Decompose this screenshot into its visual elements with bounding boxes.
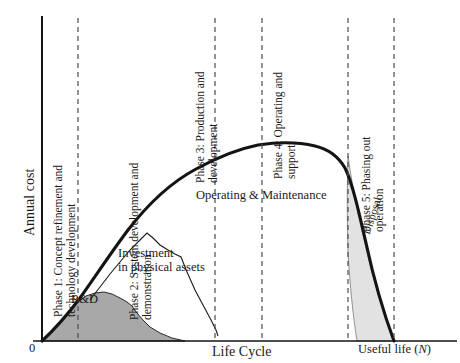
rd-region-label: R&D bbox=[71, 292, 98, 306]
investment-region-label-line1: Investment bbox=[118, 246, 205, 260]
phase-label-3-line1: Phase 3: Production and bbox=[194, 72, 207, 183]
life-cycle-cost-chart: Annual cost Life Cycle 0 Useful life (N)… bbox=[0, 0, 460, 363]
phase-label-2-line2: demonstration bbox=[141, 163, 154, 320]
phase-label-2: Phase 2: System development and demonstr… bbox=[128, 163, 154, 320]
useful-life-symbol: N bbox=[418, 342, 426, 356]
phase-label-3: Phase 3: Production and development bbox=[194, 72, 220, 183]
useful-life-suffix: ) bbox=[427, 342, 431, 356]
phase-label-4-line1: Phase 4: Operating and bbox=[272, 72, 285, 179]
investment-region-label-line2: in physical assets bbox=[118, 260, 205, 274]
phase-label-4: Phase 4: Operating and support bbox=[272, 72, 298, 179]
om-region-label: Operating & Maintenance bbox=[196, 188, 327, 202]
investment-region-label: Investment in physical assets bbox=[118, 246, 205, 274]
x-axis-end-label: Useful life (N) bbox=[358, 342, 431, 356]
phase-label-2-line1: Phase 2: System development and bbox=[128, 163, 141, 320]
phase-label-3-line2: development bbox=[207, 72, 220, 183]
phase-label-1-line1: Phase 1: Concept refinement and bbox=[52, 165, 65, 317]
useful-life-prefix: Useful life ( bbox=[358, 342, 418, 356]
y-axis-title: Annual cost bbox=[22, 169, 38, 236]
phase-label-4-line2: support bbox=[285, 72, 298, 179]
x-axis-origin-label: 0 bbox=[29, 341, 35, 355]
x-axis-title: Life Cycle bbox=[212, 344, 271, 360]
